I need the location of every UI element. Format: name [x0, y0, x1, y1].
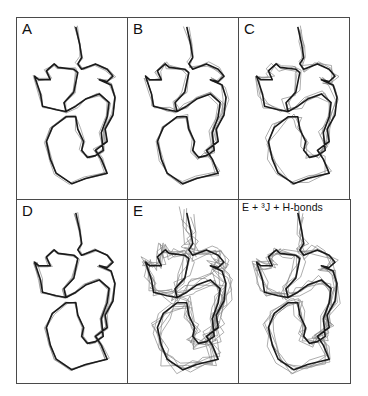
panel-a: A: [16, 17, 128, 200]
panel-e: E: [127, 199, 239, 384]
backbone-trace-a: [17, 18, 128, 200]
panel-label-f: E + ³J + H-bonds: [242, 202, 323, 213]
panel-label-d: D: [22, 203, 33, 218]
backbone-trace-f: [239, 200, 351, 384]
panel-b: B: [127, 17, 239, 200]
panel-label-a: A: [22, 21, 32, 36]
backbone-trace-b: [128, 18, 239, 200]
panel-d: D: [16, 199, 128, 384]
panel-c: C: [238, 17, 350, 200]
panel-label-e: E: [133, 203, 143, 218]
panel-label-c: C: [244, 21, 255, 36]
backbone-trace-e: [128, 200, 239, 384]
panel-f: E + ³J + H-bonds: [238, 199, 351, 384]
backbone-trace-d: [17, 200, 128, 384]
figure-grid: A B C D E E + ³J + H-bonds: [16, 17, 351, 384]
backbone-trace-c: [239, 18, 350, 200]
panel-label-b: B: [133, 21, 143, 36]
